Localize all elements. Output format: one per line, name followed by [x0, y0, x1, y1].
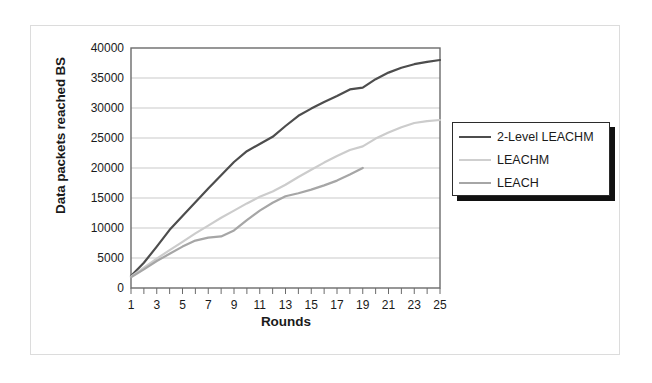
- y-axis-tick-label: 0: [60, 281, 124, 295]
- figure-root: 0500010000150002000025000300003500040000…: [0, 0, 652, 383]
- y-axis-tick-label: 5000: [60, 251, 124, 265]
- y-axis-tick-label: 25000: [60, 131, 124, 145]
- x-axis-tick-label: 19: [356, 298, 369, 312]
- x-axis-title: Rounds: [131, 314, 441, 329]
- y-axis-title: Data packets reached BS: [53, 21, 68, 251]
- x-axis-tick-label: 17: [330, 298, 343, 312]
- x-axis-tick-label: 25: [433, 298, 446, 312]
- legend-item-2[interactable]: LEACH: [459, 173, 539, 193]
- data-series-group: [131, 60, 440, 277]
- y-axis-tick-label: 10000: [60, 221, 124, 235]
- x-axis-tick-label: 13: [279, 298, 292, 312]
- legend-swatch-icon: [459, 136, 491, 138]
- y-axis-tick-label: 15000: [60, 191, 124, 205]
- x-axis-tick-label: 3: [153, 298, 160, 312]
- legend-item-0[interactable]: 2-Level LEACHM: [459, 127, 594, 147]
- x-axis-tick-label: 5: [179, 298, 186, 312]
- y-axis-tick-label: 40000: [60, 41, 124, 55]
- x-axis-tick-label: 21: [382, 298, 395, 312]
- x-axis-tick-label: 1: [128, 298, 135, 312]
- y-axis-tick-label: 35000: [60, 71, 124, 85]
- legend-item-label: LEACHM: [497, 153, 549, 167]
- chart-legend: 2-Level LEACHM LEACHM LEACH: [452, 122, 610, 196]
- x-axis-tick-label: 23: [408, 298, 421, 312]
- y-axis-tick-label: 20000: [60, 161, 124, 175]
- y-axis-tick-label: 30000: [60, 101, 124, 115]
- x-axis-tick-label: 7: [205, 298, 212, 312]
- x-axis-tick-label: 11: [254, 298, 266, 312]
- legend-shadow-right: [610, 127, 615, 201]
- series-line-2: [131, 168, 363, 277]
- legend-swatch-icon: [459, 159, 491, 161]
- legend-item-1[interactable]: LEACHM: [459, 150, 549, 170]
- x-axis-tick-label: 15: [305, 298, 318, 312]
- legend-item-label: LEACH: [497, 176, 539, 190]
- x-axis-tick-label: 9: [231, 298, 238, 312]
- gridlines-group: [131, 78, 440, 258]
- x-axis-tick-marks: [131, 288, 440, 294]
- legend-swatch-icon: [459, 182, 491, 184]
- legend-item-label: 2-Level LEACHM: [497, 130, 594, 144]
- legend-shadow-bottom: [457, 196, 615, 201]
